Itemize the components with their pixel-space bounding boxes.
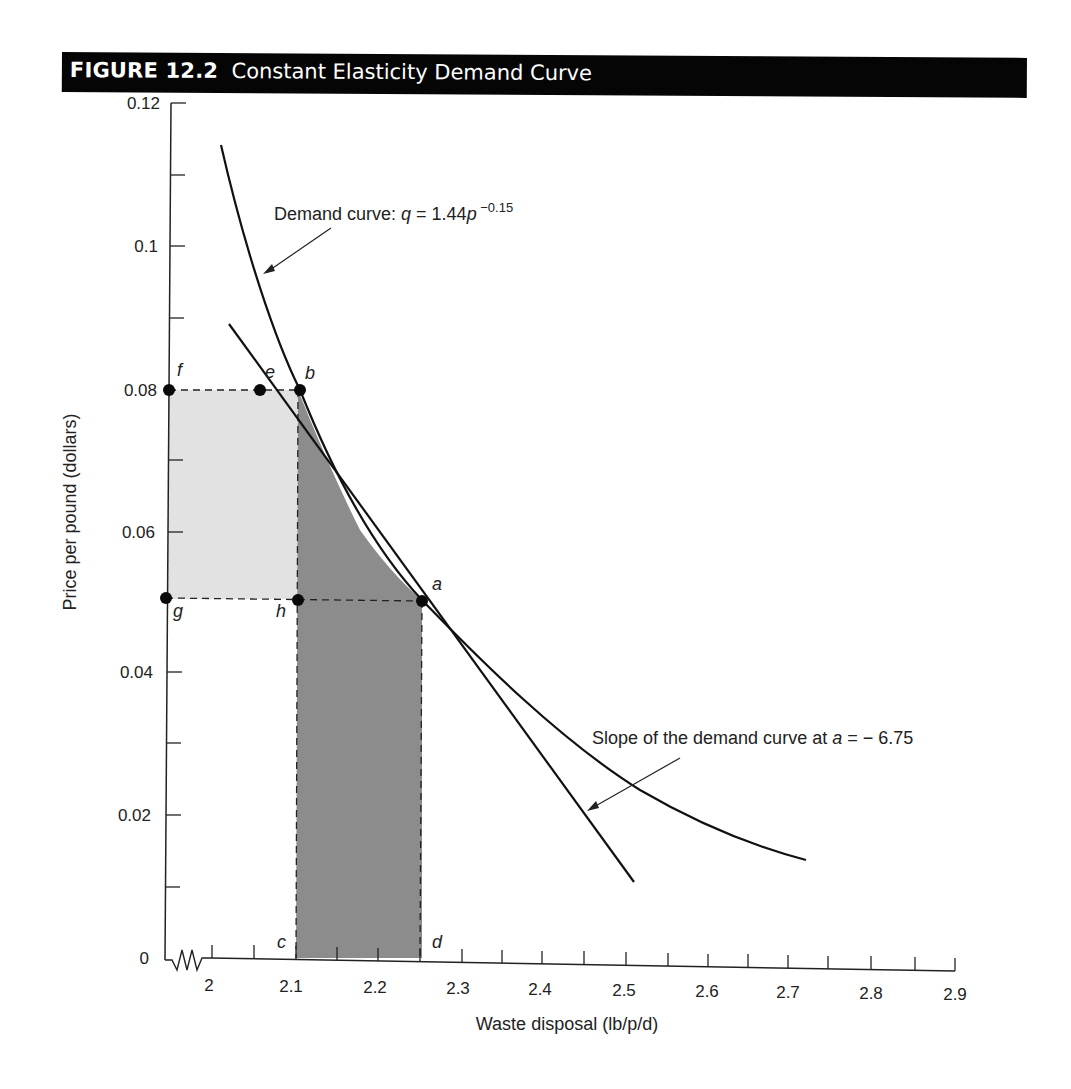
x-axis: 2 2.1 2.2 2.3 2.4 2.5 2.6 2.7 2.8 2.9 Wa… [165, 945, 967, 1034]
x-tick-label: 2.4 [528, 980, 552, 999]
point-label-c: c [277, 932, 286, 952]
point-a [416, 595, 428, 607]
y-tick-label: 0 [140, 949, 149, 968]
y-tick-label: 0.08 [124, 381, 157, 400]
point-f [163, 384, 175, 396]
point-b [294, 384, 306, 396]
point-label-b: b [305, 363, 315, 383]
y-axis-title: Price per pound (dollars) [60, 413, 80, 610]
x-tick-label: 2.7 [776, 983, 800, 1002]
x-tick-label: 2.9 [943, 985, 967, 1004]
point-label-e: e [265, 362, 275, 382]
shaded-regions [168, 390, 422, 958]
x-tick-label: 2.2 [363, 978, 387, 997]
point-label-f: f [177, 360, 184, 380]
point-label-d: d [432, 932, 443, 952]
demand-chart: 0.12 0.1 0.08 0.06 0.04 0.02 0 Price per… [0, 0, 1071, 1089]
dark-region-under-curve [296, 390, 422, 958]
demand-curve-annotation: Demand curve: q = 1.44p −0.15 [274, 200, 513, 224]
arrow-icon [587, 758, 680, 811]
x-tick-label: 2.3 [446, 979, 470, 998]
arrow-icon [263, 228, 331, 274]
y-tick-label: 0.12 [127, 94, 160, 113]
point-label-h: h [276, 601, 286, 621]
point-label-a: a [432, 574, 442, 594]
x-axis-title: Waste disposal (lb/p/d) [476, 1014, 658, 1034]
point-e [254, 384, 266, 396]
point-g [160, 592, 172, 604]
x-tick-label: 2.1 [279, 977, 303, 996]
x-tick-label: 2.6 [695, 982, 719, 1001]
y-tick-label: 0.1 [134, 237, 158, 256]
x-tick-label: 2.5 [612, 981, 636, 1000]
light-rectangle-fbhg [168, 390, 298, 599]
y-tick-label: 0.04 [120, 663, 153, 682]
point-label-g: g [173, 601, 183, 621]
tangent-line [229, 324, 634, 882]
y-tick-label: 0.06 [122, 523, 155, 542]
y-axis: 0.12 0.1 0.08 0.06 0.04 0.02 0 Price per… [60, 94, 186, 968]
point-h [292, 594, 304, 606]
x-tick-label: 2 [204, 976, 213, 995]
y-tick-label: 0.02 [118, 806, 151, 825]
slope-annotation: Slope of the demand curve at a = − 6.75 [592, 728, 913, 748]
axis-break-icon [165, 950, 210, 970]
x-tick-label: 2.8 [859, 984, 883, 1003]
